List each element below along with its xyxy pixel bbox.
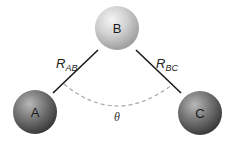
atom-c: C bbox=[178, 91, 222, 135]
atom-a: A bbox=[13, 90, 57, 134]
bond-label-bc-sub: BC bbox=[165, 63, 178, 73]
bond-label-ab-main: R bbox=[56, 56, 65, 71]
molecule-diagram: B A C RAB RBC θ bbox=[0, 0, 234, 149]
diagram-svg: B A C RAB RBC θ bbox=[0, 0, 234, 149]
atom-a-label: A bbox=[31, 105, 40, 120]
atom-b-label: B bbox=[113, 21, 122, 36]
bond-label-ab: RAB bbox=[56, 56, 77, 73]
bond-label-bc-main: R bbox=[156, 56, 165, 71]
atom-c-label: C bbox=[195, 106, 204, 121]
bond-label-ab-sub: AB bbox=[64, 63, 77, 73]
atom-b: B bbox=[95, 6, 139, 50]
angle-label-theta: θ bbox=[114, 110, 120, 124]
bond-label-bc: RBC bbox=[156, 56, 178, 73]
angle-arc bbox=[64, 84, 173, 106]
